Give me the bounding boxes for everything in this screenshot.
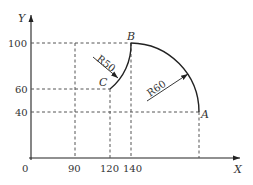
- x-axis-label: X: [233, 163, 243, 176]
- arc-BA-r60: [131, 43, 199, 112]
- diagram-svg: Y X 0 100 60 40 90 120 140 A B C R50 R60: [0, 0, 253, 185]
- x-tick-140: 140: [123, 163, 142, 174]
- y-tick-40: 40: [15, 107, 28, 118]
- y-axis-label: Y: [18, 12, 27, 25]
- y-tick-100: 100: [8, 38, 27, 49]
- point-B-label: B: [126, 30, 135, 43]
- x-tick-120: 120: [100, 163, 119, 174]
- coordinate-diagram: Y X 0 100 60 40 90 120 140 A B C R50 R60: [0, 0, 253, 185]
- r50-label: R50: [95, 53, 118, 74]
- guide-lines: [31, 43, 199, 158]
- x-tick-90: 90: [68, 163, 81, 174]
- y-tick-60: 60: [15, 84, 28, 95]
- point-C-label: C: [99, 76, 108, 89]
- point-A-label: A: [200, 108, 209, 121]
- origin-label: 0: [22, 163, 28, 174]
- r60-label: R60: [145, 78, 168, 99]
